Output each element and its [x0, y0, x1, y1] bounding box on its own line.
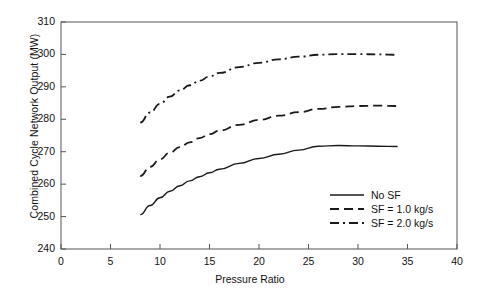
x-axis-title: Pressure Ratio	[0, 273, 500, 285]
y-tick-label: 280	[13, 112, 55, 124]
series-line	[140, 54, 397, 122]
plot-canvas: No SFSF = 1.0 kg/sSF = 2.0 kg/s	[0, 0, 500, 295]
y-tick-label: 250	[13, 210, 55, 222]
plot-frame	[61, 22, 457, 249]
y-tick-label: 240	[13, 242, 55, 254]
x-tick-label: 40	[437, 255, 477, 267]
x-tick-label: 35	[388, 255, 428, 267]
legend-label: SF = 1.0 kg/s	[371, 203, 433, 215]
chart-legend: No SFSF = 1.0 kg/sSF = 2.0 kg/s	[330, 189, 433, 229]
chart-figure: Combined Cycle Network Output (MW) Press…	[0, 0, 500, 295]
x-tick-label: 5	[91, 255, 131, 267]
y-tick-label: 310	[13, 15, 55, 27]
x-tick-label: 20	[239, 255, 279, 267]
series-line	[140, 146, 397, 215]
series-line	[140, 106, 397, 176]
x-tick-label: 0	[41, 255, 81, 267]
x-tick-label: 25	[289, 255, 329, 267]
y-tick-label: 290	[13, 80, 55, 92]
y-tick-label: 300	[13, 47, 55, 59]
x-tick-label: 15	[190, 255, 230, 267]
axis-ticks	[61, 22, 457, 249]
x-tick-label: 30	[338, 255, 378, 267]
series-lines	[140, 54, 397, 215]
x-tick-label: 10	[140, 255, 180, 267]
legend-label: SF = 2.0 kg/s	[371, 217, 433, 229]
y-tick-label: 270	[13, 145, 55, 157]
y-tick-label: 260	[13, 177, 55, 189]
legend-label: No SF	[371, 189, 401, 201]
